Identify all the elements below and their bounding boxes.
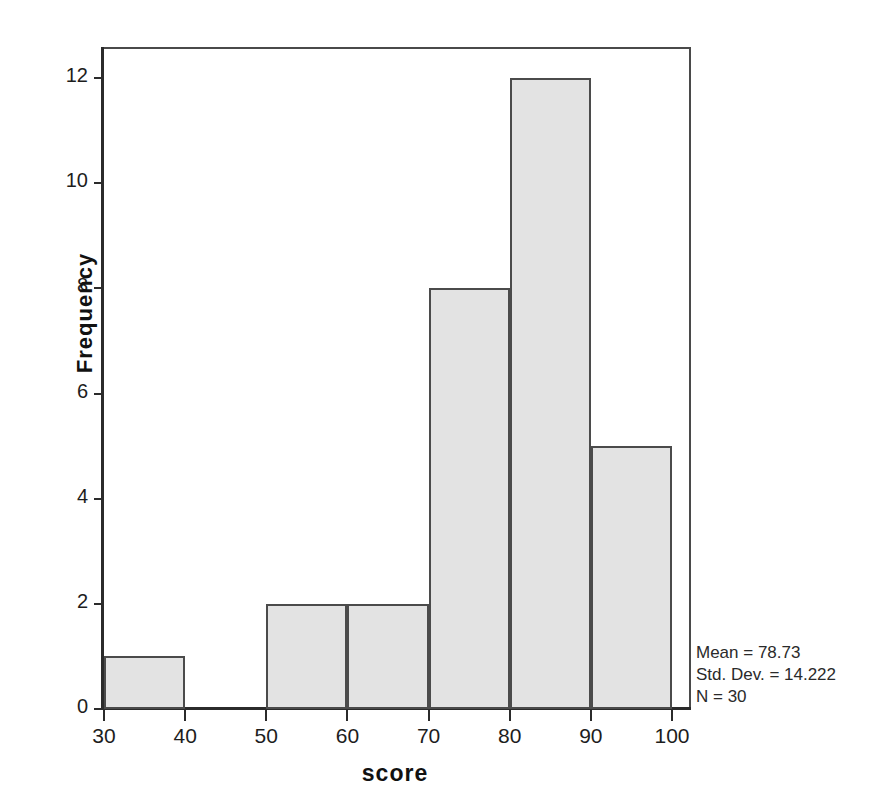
y-tick-mark <box>94 393 103 395</box>
x-tick-label: 40 <box>155 724 215 748</box>
y-tick-label: 2 <box>40 590 88 613</box>
statistics-annotation: Mean = 78.73 Std. Dev. = 14.222 N = 30 <box>696 642 836 708</box>
y-tick-mark <box>94 603 103 605</box>
y-tick-mark <box>94 77 103 79</box>
x-axis-title: score <box>300 760 490 787</box>
histogram-bar <box>429 288 510 709</box>
stat-mean: Mean = 78.73 <box>696 642 836 664</box>
histogram-bar <box>266 604 347 709</box>
histogram-bar <box>591 446 672 709</box>
y-tick-mark <box>94 182 103 184</box>
y-tick-label: 0 <box>40 695 88 718</box>
x-tick-label: 80 <box>480 724 540 748</box>
x-tick-mark <box>346 710 348 721</box>
stat-n: N = 30 <box>696 686 836 708</box>
histogram-bar <box>510 78 591 709</box>
histogram-figure: 024681012 30405060708090100 Frequency sc… <box>0 0 884 810</box>
x-tick-mark <box>265 710 267 721</box>
x-tick-label: 30 <box>74 724 134 748</box>
x-tick-label: 50 <box>236 724 296 748</box>
histogram-bar <box>104 656 185 709</box>
x-tick-label: 70 <box>399 724 459 748</box>
y-tick-mark <box>94 708 103 710</box>
y-tick-label: 4 <box>40 485 88 508</box>
x-tick-mark <box>509 710 511 721</box>
histogram-bar <box>347 604 428 709</box>
stat-stddev: Std. Dev. = 14.222 <box>696 664 836 686</box>
x-tick-mark <box>671 710 673 721</box>
x-tick-label: 100 <box>642 724 702 748</box>
y-tick-label: 12 <box>40 64 88 87</box>
y-axis-title: Frequency <box>72 238 98 388</box>
y-axis-line <box>101 47 104 709</box>
x-tick-label: 60 <box>317 724 377 748</box>
x-tick-mark <box>184 710 186 721</box>
x-tick-mark <box>590 710 592 721</box>
y-tick-mark <box>94 498 103 500</box>
y-tick-label: 10 <box>40 169 88 192</box>
x-tick-mark <box>428 710 430 721</box>
x-tick-label: 90 <box>561 724 621 748</box>
x-tick-mark <box>103 710 105 721</box>
